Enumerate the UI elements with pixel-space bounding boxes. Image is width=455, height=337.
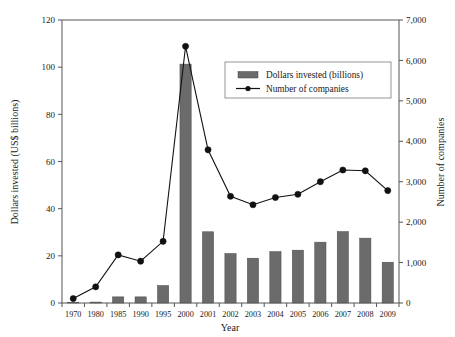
bar-2005 xyxy=(292,250,303,303)
companies-marker-2008 xyxy=(362,168,368,174)
left-tick-label: 20 xyxy=(46,251,56,261)
bar-1985 xyxy=(113,297,124,303)
bar-2004 xyxy=(270,252,281,303)
right-tick-label: 4,000 xyxy=(406,136,427,146)
left-axis-ticks: 020406080100120 xyxy=(42,15,63,308)
chart-legend: Dollars invested (billions) Number of co… xyxy=(225,62,391,98)
bar-2002 xyxy=(225,253,236,303)
companies-marker-2000 xyxy=(182,43,188,49)
companies-marker-1990 xyxy=(138,258,144,264)
left-tick-label: 0 xyxy=(51,298,56,308)
bar-2001 xyxy=(202,232,213,303)
x-tick-label: 1990 xyxy=(132,310,148,319)
x-tick-label: 2008 xyxy=(357,310,373,319)
companies-marker-2002 xyxy=(227,193,233,199)
x-tick-label: 2005 xyxy=(290,310,306,319)
bar-2007 xyxy=(337,232,348,303)
right-tick-label: 1,000 xyxy=(406,258,427,268)
x-tick-label: 2000 xyxy=(177,310,193,319)
bar-1995 xyxy=(157,286,168,303)
right-axis-ticks: 01,0002,0003,0004,0005,0006,0007,000 xyxy=(399,15,427,308)
right-tick-label: 2,000 xyxy=(406,217,427,227)
left-tick-label: 100 xyxy=(42,62,56,72)
left-tick-label: 120 xyxy=(42,15,56,25)
companies-marker-2009 xyxy=(385,188,391,194)
bar-2009 xyxy=(382,262,393,303)
x-tick-label: 2001 xyxy=(200,310,216,319)
companies-marker-2007 xyxy=(340,167,346,173)
companies-marker-2003 xyxy=(250,202,256,208)
chart-figure: 020406080100120 01,0002,0003,0004,0005,0… xyxy=(0,0,455,337)
x-tick-label: 2004 xyxy=(267,310,283,319)
x-tick-label: 1995 xyxy=(155,310,171,319)
companies-marker-2004 xyxy=(272,194,278,200)
companies-marker-1995 xyxy=(160,238,166,244)
x-tick-label: 2009 xyxy=(380,310,396,319)
x-tick-label: 1970 xyxy=(65,310,81,319)
x-axis-ticks: 1970198019851990199520002001200220032004… xyxy=(62,303,399,319)
x-axis-title: Year xyxy=(221,322,240,333)
x-tick-label: 2006 xyxy=(312,310,328,319)
bar-series-dollars-invested xyxy=(68,64,394,303)
x-tick-label: 2003 xyxy=(245,310,261,319)
companies-marker-2005 xyxy=(295,191,301,197)
y-axis-title: Dollars invested (US$ billions) xyxy=(9,100,21,225)
left-tick-label: 40 xyxy=(46,204,56,214)
right-tick-label: 5,000 xyxy=(406,96,427,106)
bar-2003 xyxy=(247,258,258,303)
x-tick-label: 1985 xyxy=(110,310,126,319)
right-tick-label: 3,000 xyxy=(406,177,427,187)
left-tick-label: 60 xyxy=(46,157,56,167)
x-tick-label: 2002 xyxy=(222,310,238,319)
x-tick-label: 1980 xyxy=(88,310,104,319)
bar-2006 xyxy=(315,242,326,303)
bar-2008 xyxy=(360,238,371,303)
companies-marker-2006 xyxy=(317,179,323,185)
companies-marker-1980 xyxy=(93,284,99,290)
right-tick-label: 7,000 xyxy=(406,15,427,25)
companies-marker-1970 xyxy=(70,295,76,301)
bar-1990 xyxy=(135,297,146,303)
bar-1970 xyxy=(68,302,79,303)
y2-axis-title: Number of companies xyxy=(435,117,446,206)
right-tick-label: 0 xyxy=(406,298,411,308)
bar-2000 xyxy=(180,64,191,303)
companies-marker-1985 xyxy=(115,252,121,258)
left-tick-label: 80 xyxy=(46,110,56,120)
companies-marker-2001 xyxy=(205,147,211,153)
legend-marker-dot xyxy=(245,86,250,91)
legend-label-dollars-invested: Dollars invested (billions) xyxy=(266,70,363,81)
x-tick-label: 2007 xyxy=(335,310,351,319)
legend-swatch-bar xyxy=(238,72,258,79)
bar-1980 xyxy=(90,302,101,303)
dual-axis-chart: 020406080100120 01,0002,0003,0004,0005,0… xyxy=(0,0,455,337)
legend-label-number-of-companies: Number of companies xyxy=(266,84,349,94)
right-tick-label: 6,000 xyxy=(406,56,427,66)
